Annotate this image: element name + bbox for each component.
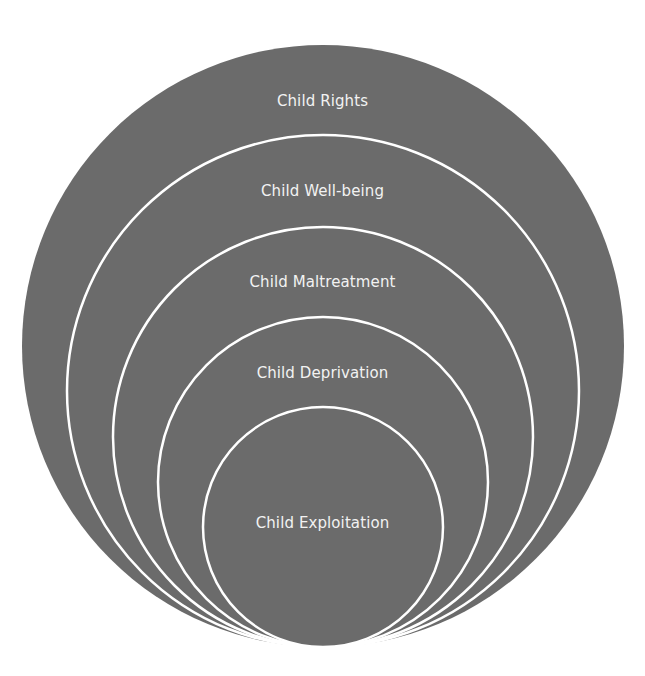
label-child-exploitation: Child Exploitation [0, 513, 645, 533]
nested-circles-diagram: Child Rights Child Well-being Child Malt… [0, 0, 645, 676]
label-child-rights: Child Rights [0, 91, 645, 111]
label-child-maltreatment: Child Maltreatment [0, 272, 645, 292]
label-child-deprivation: Child Deprivation [0, 363, 645, 383]
label-child-well-being: Child Well-being [0, 181, 645, 201]
